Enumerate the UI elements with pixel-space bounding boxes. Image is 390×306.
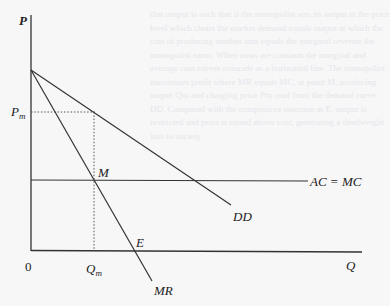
marginal-revenue-curve [31,70,152,281]
ac-mc-label: AC = MC [310,175,361,188]
p-axis-label: P [19,14,27,27]
point-e-label: E [136,236,144,249]
ac-mc-line [31,180,308,181]
pm-label-sub: m [19,111,26,121]
demand-curve-dd [31,70,231,205]
qm-label: Qm [86,262,102,278]
qm-label-sub: m [95,268,102,278]
q-axis-label: Q [346,259,355,272]
origin-label: 0 [25,260,32,273]
dd-label: DD [233,210,252,223]
qm-label-main: Q [86,261,95,276]
pm-label-main: P [11,104,19,119]
pm-label: Pm [11,105,25,121]
mr-label: MR [154,284,173,297]
point-m-label: M [98,166,109,179]
q-axis [31,251,362,253]
